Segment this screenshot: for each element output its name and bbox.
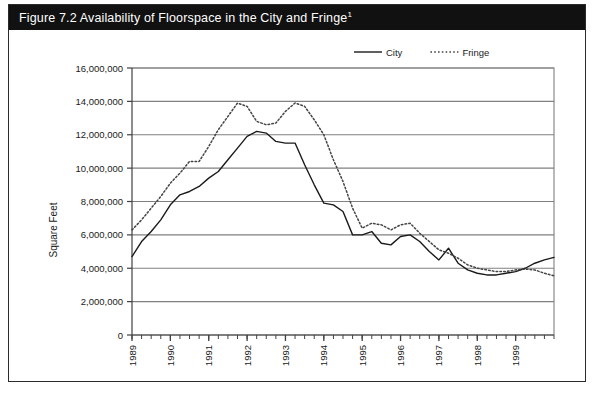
x-axis-tick-label: 1997 <box>433 345 444 366</box>
figure-title: Figure 7.2 Availability of Floorspace in… <box>19 10 352 25</box>
y-axis: 02,000,0004,000,0006,000,0008,000,00010,… <box>75 63 132 341</box>
x-axis-tick-label: 1998 <box>472 345 483 366</box>
y-axis-tick-label: 0 <box>118 330 123 341</box>
x-axis-tick-label: 1994 <box>318 345 329 366</box>
data-series <box>132 103 554 276</box>
legend-label-fringe: Fringe <box>462 47 489 58</box>
y-axis-tick-label: 14,000,000 <box>75 96 123 107</box>
x-axis-tick-label: 1996 <box>395 345 406 366</box>
figure-title-bar: Figure 7.2 Availability of Floorspace in… <box>9 5 585 30</box>
x-axis: 1989199019911992199319941995199619971998… <box>127 335 555 366</box>
x-axis-tick-label: 1992 <box>242 345 253 366</box>
x-axis-tick-label: 1990 <box>165 345 176 366</box>
y-axis-tick-label: 10,000,000 <box>75 163 123 174</box>
title-footnote-marker: 1 <box>347 10 352 19</box>
y-axis-tick-label: 12,000,000 <box>75 129 123 140</box>
legend-label-city: City <box>386 47 403 58</box>
y-axis-tick-label: 16,000,000 <box>75 63 123 74</box>
series-line-city <box>132 131 554 275</box>
x-axis-tick-label: 1991 <box>203 345 214 366</box>
gridlines <box>132 68 554 335</box>
y-axis-tick-label: 6,000,000 <box>81 229 123 240</box>
y-axis-tick-label: 4,000,000 <box>81 263 123 274</box>
line-chart: 02,000,0004,000,0006,000,0008,000,00010,… <box>9 30 585 381</box>
chart-legend: CityFringe <box>354 47 489 58</box>
figure-frame: Figure 7.2 Availability of Floorspace in… <box>8 4 586 382</box>
y-axis-title: Square Feet <box>48 202 59 257</box>
x-axis-tick-label: 1989 <box>127 345 138 366</box>
x-axis-tick-label: 1999 <box>510 345 521 366</box>
series-line-fringe <box>132 103 554 276</box>
x-axis-tick-label: 1993 <box>280 345 291 366</box>
y-axis-tick-label: 2,000,000 <box>81 296 123 307</box>
y-axis-tick-label: 8,000,000 <box>81 196 123 207</box>
chart-area: 02,000,0004,000,0006,000,0008,000,00010,… <box>9 30 585 381</box>
x-axis-tick-label: 1995 <box>357 345 368 366</box>
